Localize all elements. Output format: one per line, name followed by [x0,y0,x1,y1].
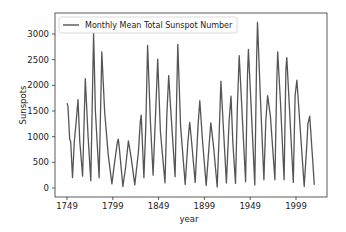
y-axis-label: Sunspots [18,85,28,125]
y-tick-label: 1000 [27,132,49,142]
y-tick-label: 2000 [27,80,49,90]
y-tick-label: 3000 [27,29,49,39]
x-tick-label: 1949 [239,201,261,211]
legend: Monthly Mean Total Sunspot Number [59,17,237,33]
x-tick-label: 1799 [102,201,124,211]
x-axis-ticks: 174917991849189919491999 [56,197,307,211]
y-tick-label: 1500 [27,106,49,116]
x-tick-label: 1999 [285,201,307,211]
x-tick-label: 1849 [148,201,170,211]
legend-label: Monthly Mean Total Sunspot Number [85,21,233,30]
y-tick-label: 2500 [27,55,49,65]
sunspot-line-chart: 050010001500200025003000 174917991849189… [0,0,346,232]
x-tick-label: 1749 [56,201,78,211]
x-tick-label: 1899 [194,201,216,211]
x-axis-label: year [180,214,199,224]
y-tick-label: 500 [33,157,49,167]
y-tick-label: 0 [44,183,49,193]
y-axis-ticks: 050010001500200025003000 [27,29,55,193]
